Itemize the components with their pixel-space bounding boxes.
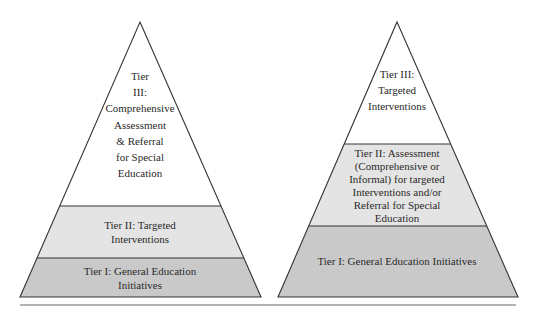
left-tier-3-label: Tier III: Comprehensive Assessment & Ref… [90, 68, 190, 181]
right-tier-1-label: Tier I: General Education Initiatives [297, 254, 497, 268]
right-tier-3-label: Tier III: Targeted Interventions [347, 66, 447, 114]
right-tier-2-label: Tier II: Assessment (Comprehensive or In… [337, 147, 457, 224]
left-tier-1-label: Tier I: General Education Initiatives [50, 264, 230, 292]
left-tier-2-label: Tier II: Targeted Interventions [70, 218, 210, 246]
